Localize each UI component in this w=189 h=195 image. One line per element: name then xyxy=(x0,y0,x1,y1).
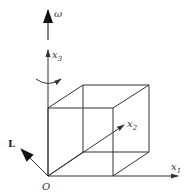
cube-diagram: ω x3 x2 x1 L O xyxy=(0,0,189,195)
x3-label: x3 xyxy=(52,49,63,63)
origin-label: O xyxy=(42,181,50,192)
x2-label: x2 xyxy=(127,118,138,132)
L-vector xyxy=(21,149,48,176)
omega-label: ω xyxy=(54,8,62,19)
x1-label: x1 xyxy=(171,161,181,175)
L-label: L xyxy=(8,138,15,149)
